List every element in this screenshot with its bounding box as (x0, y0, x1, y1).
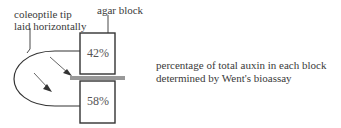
caption-line2: determined by Went's bioassay (156, 72, 292, 85)
top-block-percent: 42% (80, 46, 116, 61)
agar-block-label: agar block (97, 4, 143, 17)
auxin-arrow-upper (50, 57, 68, 73)
caption-line1: percentage of total auxin in each block (156, 59, 326, 72)
coleoptile-label-line2: laid horizontally (14, 20, 86, 33)
bottom-block-percent: 58% (80, 94, 116, 109)
